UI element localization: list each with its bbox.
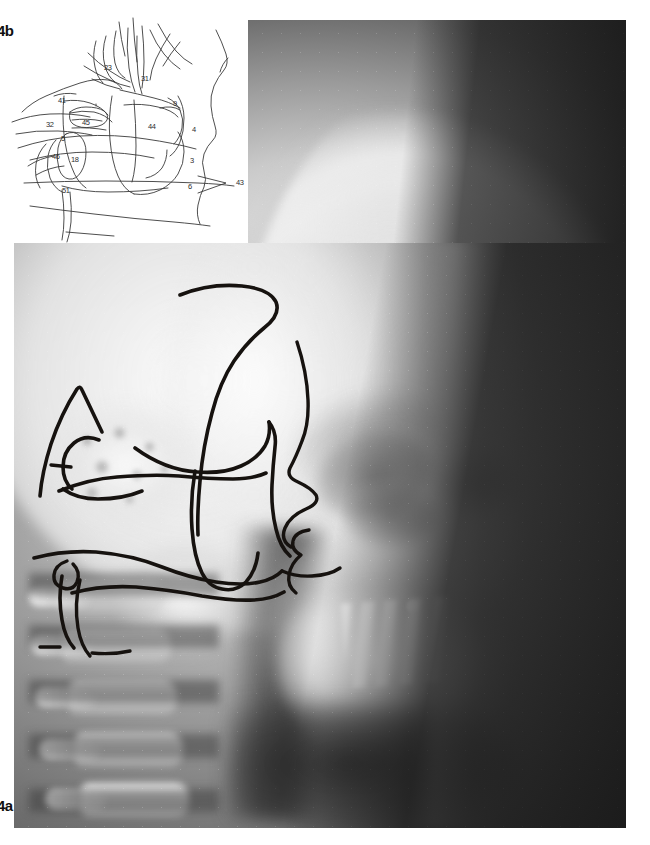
diagram-linework <box>0 0 248 243</box>
diagram-label-44: 44 <box>148 122 156 131</box>
radiograph-upper-region <box>248 20 626 244</box>
figure-label-4b: 4b <box>0 22 14 39</box>
diagram-label-45: 45 <box>82 118 90 127</box>
diagram-label-4: 4 <box>192 125 196 134</box>
diagram-label-9: 9 <box>173 99 177 108</box>
figure-label-4a: 4a <box>0 797 13 814</box>
diagram-label-23: 23 <box>104 63 112 72</box>
diagram-label-18: 18 <box>71 155 79 164</box>
film-grain-upper <box>248 20 626 244</box>
diagram-label-6: 6 <box>188 182 192 191</box>
radiograph-main-region <box>14 243 626 828</box>
diagram-label-41: 41 <box>58 96 66 105</box>
film-grain <box>14 243 626 828</box>
diagram-label-51: 51 <box>62 186 70 195</box>
diagram-label-5: 5 <box>61 134 65 143</box>
diagram-label-32: 32 <box>46 120 54 129</box>
diagram-label-46: 46 <box>52 152 60 161</box>
diagram-inset: 23 31 41 9 32 45 44 4 5 46 18 3 6 43 51 <box>0 0 248 243</box>
diagram-label-43: 43 <box>236 178 244 187</box>
diagram-label-3: 3 <box>190 156 194 165</box>
diagram-label-31: 31 <box>141 74 149 83</box>
